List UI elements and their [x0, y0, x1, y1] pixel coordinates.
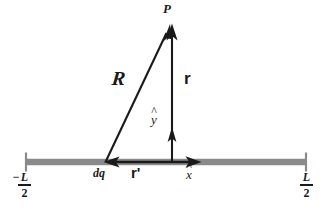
right-end-numerator: L: [302, 171, 311, 184]
left-end-numerator-wrap: −L: [20, 171, 29, 184]
left-end-minus-sign: −: [13, 171, 20, 183]
label-vector-R: R: [111, 68, 126, 88]
label-vector-r-prime: r': [131, 165, 140, 180]
physics-diagram-canvas: P R r ^ y ^ x dq r' −L 2 L 2: [0, 0, 330, 210]
vector-R-arrow: [106, 24, 173, 162]
label-unit-vector-y: ^ y: [151, 113, 157, 126]
rod-right-end-label: L 2: [300, 171, 313, 200]
unit-vector-x-glyph: ^ x: [186, 168, 192, 181]
label-charge-element-dq: dq: [93, 167, 105, 179]
left-end-denominator: 2: [22, 186, 28, 199]
label-unit-vector-x: ^ x: [186, 168, 192, 181]
label-vector-r: r: [184, 70, 191, 87]
vector-r-prime-prime-mark: ': [137, 164, 141, 181]
hat-accent-y: ^: [151, 106, 157, 118]
diagram-vector-layer: [0, 0, 330, 210]
label-point-p: P: [163, 2, 171, 15]
rod-left-end-label: −L 2: [18, 171, 31, 200]
right-end-denominator: 2: [304, 186, 310, 199]
hat-accent-x: ^: [186, 161, 192, 173]
left-end-numerator: L: [21, 170, 28, 184]
unit-vector-y-glyph: ^ y: [151, 113, 157, 126]
vector-R-shaft: [106, 33, 167, 162]
